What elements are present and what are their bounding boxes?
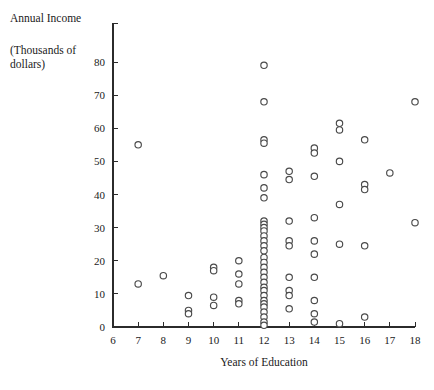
x-tick-label-14: 14: [309, 334, 321, 346]
x-tick-label-13: 13: [284, 334, 296, 346]
y-axis-title-line-2: (Thousands of: [10, 44, 76, 57]
data-point: [286, 168, 292, 174]
data-point: [311, 311, 317, 317]
data-point: [336, 241, 342, 247]
data-point: [336, 320, 342, 326]
data-point: [311, 173, 317, 179]
x-tick-label-11: 11: [234, 334, 245, 346]
data-point: [412, 99, 418, 105]
y-tick-label-70: 70: [94, 89, 106, 101]
data-point: [236, 258, 242, 264]
y-axis-title-line-3: dollars): [10, 58, 45, 71]
data-point: [361, 186, 367, 192]
data-point: [185, 292, 191, 298]
data-point: [412, 219, 418, 225]
data-point: [210, 267, 216, 273]
data-point: [311, 150, 317, 156]
data-point: [236, 271, 242, 277]
y-tick-label-50: 50: [94, 155, 106, 167]
x-tick-label-9: 9: [186, 334, 192, 346]
data-point: [135, 142, 141, 148]
data-point: [286, 218, 292, 224]
data-point: [286, 292, 292, 298]
data-point: [311, 214, 317, 220]
data-point: [361, 137, 367, 143]
data-point: [311, 319, 317, 325]
x-tick-label-6: 6: [110, 334, 116, 346]
plot-canvas: 010203040506070806789101112131415161718 …: [0, 0, 434, 390]
x-tick-label-16: 16: [359, 334, 371, 346]
data-point: [336, 158, 342, 164]
tick-labels: 010203040506070806789101112131415161718: [94, 56, 421, 346]
data-point: [261, 185, 267, 191]
data-point: [286, 274, 292, 280]
x-tick-label-8: 8: [161, 334, 167, 346]
data-point: [361, 243, 367, 249]
y-axis-title-line-1: Annual Income: [10, 12, 81, 24]
x-axis-title: Years of Education: [220, 356, 308, 368]
x-tick-label-17: 17: [384, 334, 396, 346]
data-point: [311, 238, 317, 244]
data-point: [236, 301, 242, 307]
x-tick-label-15: 15: [334, 334, 346, 346]
y-tick-label-40: 40: [94, 189, 106, 201]
data-point: [336, 127, 342, 133]
data-point: [160, 272, 166, 278]
data-point: [286, 243, 292, 249]
data-point: [261, 99, 267, 105]
y-tick-label-30: 30: [94, 222, 106, 234]
x-tick-label-7: 7: [135, 334, 141, 346]
data-point: [336, 201, 342, 207]
data-point: [286, 176, 292, 182]
data-point: [236, 281, 242, 287]
data-point: [261, 248, 267, 254]
data-point: [135, 281, 141, 287]
data-point: [210, 302, 216, 308]
y-tick-label-20: 20: [94, 255, 106, 267]
data-point: [185, 311, 191, 317]
data-point: [261, 195, 267, 201]
data-point: [387, 170, 393, 176]
x-tick-label-12: 12: [259, 334, 270, 346]
x-tick-label-18: 18: [410, 334, 422, 346]
data-point: [261, 171, 267, 177]
data-point: [261, 140, 267, 146]
data-point: [286, 306, 292, 312]
data-point: [311, 274, 317, 280]
y-tick-label-10: 10: [94, 288, 106, 300]
data-point: [210, 294, 216, 300]
data-point: [336, 120, 342, 126]
data-point: [311, 297, 317, 303]
y-tick-label-80: 80: [94, 56, 106, 68]
data-point: [261, 322, 267, 328]
data-point: [311, 251, 317, 257]
x-tick-label-10: 10: [208, 334, 220, 346]
scatter-plot-figure: 010203040506070806789101112131415161718 …: [0, 0, 434, 390]
data-points: [135, 62, 418, 328]
data-point: [261, 62, 267, 68]
data-point: [361, 314, 367, 320]
y-tick-label-60: 60: [94, 122, 106, 134]
y-tick-label-0: 0: [100, 321, 106, 333]
